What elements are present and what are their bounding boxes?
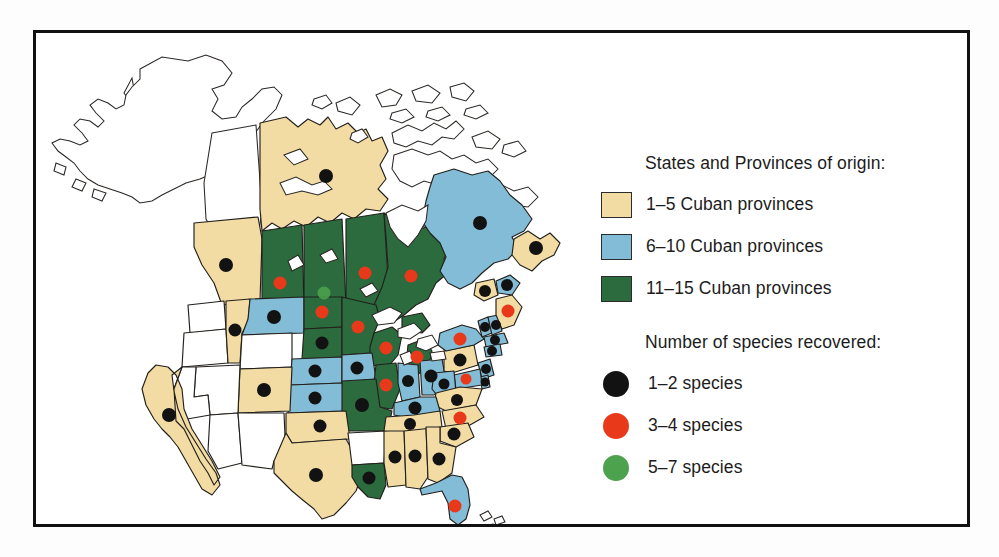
dot-north-carolina bbox=[454, 412, 467, 425]
legend-item-species-5-7: 5–7 species bbox=[601, 450, 961, 485]
dot-ontario bbox=[405, 270, 418, 283]
dot-north-dakota bbox=[316, 306, 329, 319]
dot-maine bbox=[502, 305, 515, 318]
dot-new-jersey bbox=[481, 364, 491, 374]
dot-missouri bbox=[355, 398, 369, 412]
dot-tennessee bbox=[404, 418, 416, 430]
legend-label-origin-11-15: 11–15 Cuban provinces bbox=[646, 278, 832, 299]
legend-item-origin-11-15: 11–15 Cuban provinces bbox=[601, 271, 961, 306]
dot-colorado bbox=[257, 383, 271, 397]
dot-nebraska bbox=[309, 365, 322, 378]
dot-wisconsin bbox=[380, 342, 393, 355]
legend-dot-red bbox=[603, 413, 629, 439]
region-florida bbox=[420, 475, 470, 524]
dot-nova-scotia bbox=[501, 279, 513, 291]
dot-quebec bbox=[473, 216, 487, 230]
legend-label-species-1-2: 1–2 species bbox=[648, 373, 743, 394]
legend-label-origin-6-10: 6–10 Cuban provinces bbox=[646, 236, 823, 257]
legend-label-species-5-7: 5–7 species bbox=[648, 457, 743, 478]
dot-massachusetts bbox=[490, 335, 500, 345]
dot-ohio bbox=[425, 370, 438, 383]
dot-michigan bbox=[411, 351, 424, 364]
dot-south-dakota bbox=[316, 337, 329, 350]
dot-georgia bbox=[433, 453, 446, 466]
dot-delaware bbox=[481, 378, 490, 387]
legend-label-origin-1-5: 1–5 Cuban provinces bbox=[646, 194, 813, 215]
legend-group-species: Number of species recovered: 1–2 species… bbox=[601, 332, 961, 485]
legend-swatch-blue bbox=[601, 234, 632, 260]
north-america-map bbox=[36, 33, 596, 524]
legend-item-species-3-4: 3–4 species bbox=[601, 408, 961, 443]
dot-minnesota bbox=[352, 321, 365, 334]
dot-kansas bbox=[309, 392, 322, 405]
legend-label-species-3-4: 3–4 species bbox=[648, 415, 743, 436]
dot-idaho bbox=[229, 324, 242, 337]
region-wyoming bbox=[240, 333, 292, 369]
region-arkansas bbox=[348, 431, 386, 465]
legend-dot-black bbox=[603, 371, 629, 397]
dot-montana bbox=[267, 310, 281, 324]
dot-west-virginia bbox=[439, 379, 450, 390]
map-legend: States and Provinces of origin: 1–5 Cuba… bbox=[601, 153, 961, 503]
dot-new-brunswick bbox=[479, 285, 491, 297]
dot-kentucky bbox=[409, 402, 422, 415]
dot-pennsylvania bbox=[454, 354, 467, 367]
dot-new-york bbox=[454, 333, 467, 346]
dot-iowa bbox=[351, 362, 364, 375]
dot-virginia bbox=[451, 394, 463, 406]
dot-texas bbox=[309, 468, 323, 482]
dot-louisiana bbox=[363, 472, 376, 485]
figure-root: States and Provinces of origin: 1–5 Cuba… bbox=[0, 0, 999, 557]
dot-oklahoma bbox=[314, 420, 327, 433]
figure-frame: States and Provinces of origin: 1–5 Cuba… bbox=[33, 30, 970, 527]
dot-california bbox=[162, 408, 176, 422]
dot-mississippi bbox=[389, 451, 402, 464]
region-oregon bbox=[182, 329, 228, 367]
region-arizona bbox=[208, 413, 242, 469]
dot-maryland bbox=[461, 374, 472, 385]
dot-alabama bbox=[409, 450, 422, 463]
legend-title-species: Number of species recovered: bbox=[645, 332, 961, 353]
dot-illinois bbox=[380, 379, 393, 392]
dot-saskatchewan bbox=[318, 287, 331, 300]
map-canvas bbox=[36, 33, 596, 524]
dot-manitoba bbox=[359, 267, 372, 280]
legend-item-origin-1-5: 1–5 Cuban provinces bbox=[601, 187, 961, 222]
dot-indiana bbox=[402, 375, 414, 387]
legend-swatch-green bbox=[601, 276, 632, 302]
legend-dot-green bbox=[603, 455, 629, 481]
legend-swatch-tan bbox=[601, 192, 632, 218]
dot-vermont bbox=[480, 322, 490, 332]
legend-title-origin: States and Provinces of origin: bbox=[645, 153, 961, 174]
dot-connecticut bbox=[487, 346, 497, 356]
legend-item-origin-6-10: 6–10 Cuban provinces bbox=[601, 229, 961, 264]
caribbean-islets bbox=[480, 511, 505, 524]
dot-alberta bbox=[274, 277, 287, 290]
legend-item-species-1-2: 1–2 species bbox=[601, 366, 961, 401]
dot-new-hampshire bbox=[491, 320, 501, 330]
dot-florida bbox=[449, 500, 462, 513]
dot-british-columbia bbox=[219, 258, 233, 272]
region-washington bbox=[188, 301, 226, 333]
dot-south-carolina bbox=[448, 428, 461, 441]
legend-group-origin: States and Provinces of origin: 1–5 Cuba… bbox=[601, 153, 961, 306]
dot-newfoundland-labrador bbox=[529, 241, 543, 255]
dot-northwest-territories bbox=[319, 169, 333, 183]
